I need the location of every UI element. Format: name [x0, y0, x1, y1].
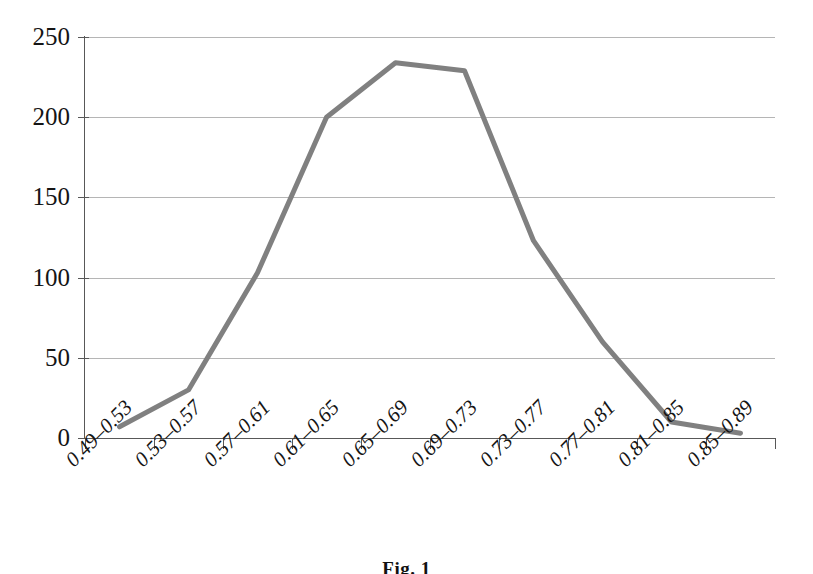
x-tick-label: 0.77–0.81: [545, 397, 619, 471]
x-tick-label: 0.61–0.65: [269, 397, 343, 471]
x-tick-label: 0.57–0.61: [200, 397, 274, 471]
x-tick-label: 0.53–0.57: [131, 397, 205, 471]
x-tick-label: 0.85–0.89: [683, 397, 757, 471]
x-tick-label: 0.73–0.77: [476, 397, 550, 471]
x-tick-label: 0.81–0.85: [614, 397, 688, 471]
figure-caption: Fig. 1: [0, 558, 813, 574]
x-tick-labels-group: 0.49–0.530.53–0.570.57–0.610.61–0.650.65…: [0, 0, 813, 574]
figure-container: 050100150200250 0.49–0.530.53–0.570.57–0…: [0, 0, 813, 574]
x-tick-label: 0.69–0.73: [407, 397, 481, 471]
x-tick-label: 0.49–0.53: [62, 397, 136, 471]
x-tick-label: 0.65–0.69: [338, 397, 412, 471]
